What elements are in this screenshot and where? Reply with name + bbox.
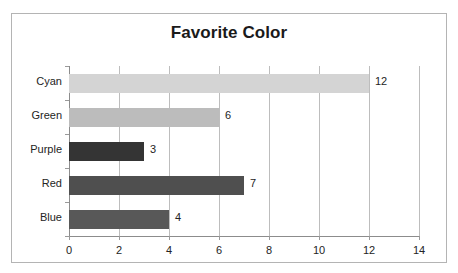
bar-value-cyan: 12 [375,75,387,87]
x-tick-2 [119,236,120,240]
chart-title: Favorite Color [12,23,446,43]
bar-value-purple: 3 [150,143,156,155]
x-tick-14 [419,236,420,240]
bar-red[interactable] [69,176,244,195]
x-tick-4 [169,236,170,240]
category-label-cyan: Cyan [36,75,62,87]
bar-row: Blue4 [69,202,419,236]
category-label-purple: Purple [30,143,62,155]
x-tick-8 [269,236,270,240]
x-axis-line [69,236,420,237]
bar-green[interactable] [69,108,219,127]
y-tick [65,100,69,101]
bar-blue[interactable] [69,210,169,229]
bar-value-blue: 4 [175,211,181,223]
x-axis-label: 0 [66,244,72,256]
category-label-blue: Blue [40,211,62,223]
x-axis-label: 8 [266,244,272,256]
bar-purple[interactable] [69,142,144,161]
category-label-red: Red [42,177,62,189]
x-axis-label: 12 [363,244,375,256]
bar-cyan[interactable] [69,74,369,93]
x-tick-6 [219,236,220,240]
x-axis-label: 4 [166,244,172,256]
x-tick-12 [369,236,370,240]
bar-value-green: 6 [225,109,231,121]
plot-area: Cyan12Green6Purple3Red7Blue4 02468101214 [69,66,419,236]
x-axis-label: 2 [116,244,122,256]
bar-row: Purple3 [69,134,419,168]
x-axis-label: 10 [313,244,325,256]
bar-row: Green6 [69,100,419,134]
y-tick [65,66,69,67]
y-tick [65,134,69,135]
y-tick [65,168,69,169]
x-tick-0 [69,236,70,240]
category-label-green: Green [31,109,62,121]
bar-row: Red7 [69,168,419,202]
x-tick-10 [319,236,320,240]
x-axis-label: 6 [216,244,222,256]
x-axis-label: 14 [413,244,425,256]
gridline-14 [419,66,420,236]
chart-frame: Favorite Color Cyan12Green6Purple3Red7Bl… [11,13,447,263]
bar-row: Cyan12 [69,66,419,100]
y-tick [65,202,69,203]
bar-value-red: 7 [250,177,256,189]
